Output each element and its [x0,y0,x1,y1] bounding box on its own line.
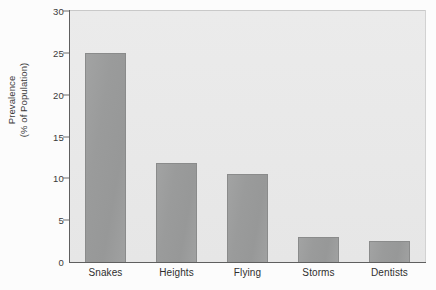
x-tick-label: Snakes [89,267,123,278]
x-tick-label: Flying [234,267,261,278]
bar-dentists [369,241,410,262]
x-tick-label: Storms [302,267,334,278]
bar-flying [227,174,268,262]
bar-heights [156,163,197,262]
bar-storms [298,237,339,262]
bar-chart-figure: Prevalence (% of Population) 05101520253… [0,0,436,290]
x-tick-label: Heights [159,267,194,278]
bars-layer [0,0,436,290]
bar-snakes [85,53,126,262]
x-tick-label: Dentists [371,267,408,278]
x-axis-tick-labels: SnakesHeightsFlyingStormsDentists [0,267,436,283]
